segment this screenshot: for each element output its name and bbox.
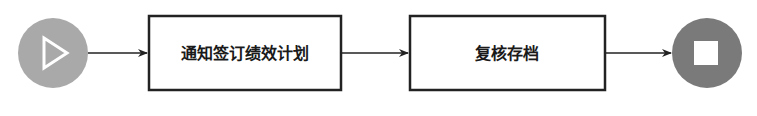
- step-label: 通知签订绩效计划: [181, 44, 309, 63]
- end-node: [672, 18, 742, 88]
- step-node-1: 通知签订绩效计划: [149, 16, 341, 90]
- step-node-2: 复核存档: [410, 16, 605, 90]
- flowchart: 通知签订绩效计划 复核存档: [0, 0, 757, 116]
- start-node: [18, 18, 88, 88]
- stop-icon: [694, 41, 718, 65]
- start-circle: [18, 18, 88, 88]
- step-label: 复核存档: [474, 44, 539, 63]
